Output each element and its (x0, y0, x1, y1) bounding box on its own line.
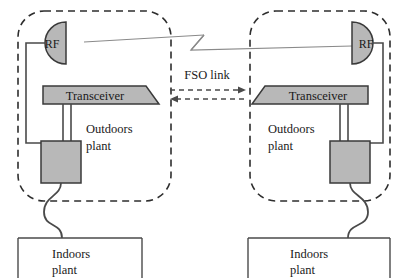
fso-arrow-left-icon (170, 96, 246, 103)
left-transceiver-leads (63, 104, 71, 141)
right-transceiver[interactable]: Transceiver (252, 86, 368, 104)
right-transceiver-leads (340, 104, 348, 141)
fso-arrow-right-icon (170, 87, 246, 94)
left-outdoors-label-line2: plant (86, 139, 112, 153)
right-indoors-label-line2: plant (290, 263, 316, 277)
left-indoors-label-line2: plant (52, 263, 78, 277)
left-indoors-label-line1: Indoors (52, 247, 90, 261)
right-outdoors-label-line1: Outdoors (268, 122, 315, 136)
left-rf-antenna[interactable]: RF (45, 22, 66, 64)
left-wavy-cable-icon (44, 183, 62, 238)
left-outdoors-label-line1: Outdoors (86, 122, 133, 136)
fso-link-label: FSO link (184, 68, 230, 82)
right-outdoors-label-line2: plant (268, 139, 294, 153)
left-transceiver-label: Transceiver (66, 89, 125, 103)
left-transceiver[interactable]: Transceiver (43, 86, 159, 104)
right-transceiver-label: Transceiver (289, 89, 348, 103)
right-indoors-label-line1: Indoors (290, 247, 328, 261)
right-indoors-plant: Indoors plant (248, 238, 390, 278)
left-rf-label: RF (45, 37, 60, 51)
line-break-zigzag-icon (191, 35, 204, 50)
right-rf-label: RF (359, 37, 374, 51)
right-rf-antenna[interactable]: RF (352, 22, 374, 64)
left-indoors-plant: Indoors plant (18, 238, 142, 278)
right-wavy-cable-icon (348, 183, 368, 238)
left-equipment-box[interactable] (41, 141, 81, 183)
right-equipment-box[interactable] (330, 141, 370, 183)
rf-link-line (84, 35, 352, 50)
diagram-canvas: RF Transceiver Indoors plant Outdoors pl… (0, 0, 407, 278)
